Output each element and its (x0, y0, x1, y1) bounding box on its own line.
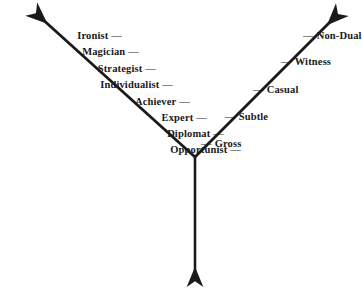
tick-dash-icon: — (201, 138, 212, 150)
left-axis-label-ironist-text: Ironist (77, 30, 108, 41)
diagram-canvas: Ironist— Magician— Strategist— Individua… (0, 0, 362, 294)
right-axis-label-gross: —Gross (201, 138, 241, 150)
tick-dash-icon: — (162, 79, 173, 91)
left-axis-label-strategist: Strategist— (4, 63, 156, 75)
left-axis-label-magician-text: Magician (82, 46, 125, 57)
right-axis-label-non-dual: —Non-Dual (303, 30, 362, 42)
left-axis-label-achiever-text: Achiever (135, 96, 176, 107)
tick-dash-icon: — (111, 30, 122, 42)
right-axis-label-casual-text: Casual (267, 84, 299, 95)
tick-dash-icon: — (179, 96, 190, 108)
tick-dash-icon: — (225, 111, 236, 123)
left-axis-label-expert: Expert— (4, 112, 207, 124)
left-axis-label-diplomat: Diplomat— (4, 128, 224, 140)
right-axis-label-witness-text: Witness (295, 56, 331, 67)
right-axis-label-witness: —Witness (281, 56, 331, 68)
tick-dash-icon: — (145, 63, 156, 75)
right-axis-label-non-dual-text: Non-Dual (317, 30, 362, 41)
tick-dash-icon: — (253, 84, 264, 96)
tick-dash-icon: — (281, 56, 292, 68)
left-axis-label-strategist-text: Strategist (98, 63, 143, 74)
right-axis-label-subtle-text: Subtle (239, 111, 269, 122)
left-axis-label-ironist: Ironist— (4, 30, 122, 42)
right-axis-label-casual: —Casual (253, 84, 298, 96)
right-axis-label-gross-text: Gross (215, 138, 242, 149)
left-axis-label-achiever: Achiever— (4, 96, 190, 108)
left-axis-label-individualist: Individualist— (4, 79, 173, 91)
left-axis-label-expert-text: Expert (162, 112, 194, 123)
left-axis-label-magician: Magician— (4, 46, 139, 58)
tick-dash-icon: — (128, 46, 139, 58)
right-axis-label-subtle: —Subtle (225, 111, 268, 123)
left-axis-label-individualist-text: Individualist (100, 79, 159, 90)
tick-dash-icon: — (303, 30, 314, 42)
tick-dash-icon: — (196, 112, 207, 124)
